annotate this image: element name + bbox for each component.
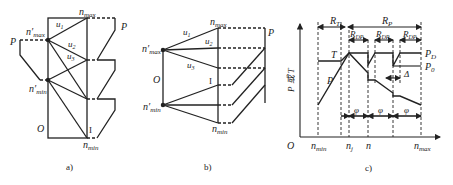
svg-text:RDP: RDP — [349, 29, 364, 40]
svg-text:n′min: n′min — [29, 83, 47, 96]
svg-text:O: O — [153, 74, 160, 85]
svg-text:nmin: nmin — [311, 140, 327, 153]
caption-a: a) — [66, 162, 73, 172]
gear-speed-power-diagrams: nmax n′max n′min nmin u1 u2 u3 P P O I a… — [0, 0, 453, 185]
svg-text:P: P — [267, 27, 274, 38]
svg-text:PD: PD — [424, 48, 436, 61]
svg-text:P 或 T: P 或 T — [286, 67, 296, 93]
svg-text:φ: φ — [404, 105, 409, 115]
svg-text:P: P — [120, 21, 127, 32]
svg-text:n′max: n′max — [142, 43, 162, 56]
svg-text:T: T — [331, 49, 338, 60]
svg-text:φ: φ — [378, 105, 383, 115]
figure-c — [300, 22, 440, 137]
svg-text:nmin: nmin — [83, 139, 99, 152]
svg-text:n′min: n′min — [143, 101, 161, 114]
caption-c: c) — [365, 163, 372, 173]
svg-text:n′max: n′max — [26, 26, 46, 39]
figure-b-labels: nmax n′max n′min nmin u1 u2 u3 P O I b) — [142, 16, 274, 172]
svg-text:P0: P0 — [424, 61, 435, 74]
figure-b — [161, 28, 265, 123]
svg-text:φ: φ — [354, 105, 359, 115]
svg-text:nmax: nmax — [414, 140, 432, 153]
svg-text:nmin: nmin — [212, 123, 228, 136]
svg-text:RT: RT — [329, 15, 341, 28]
svg-text:u2: u2 — [205, 36, 213, 47]
caption-b: b) — [204, 162, 212, 172]
svg-text:nmax: nmax — [210, 16, 228, 29]
svg-text:u1: u1 — [56, 19, 64, 30]
figure-a-labels: nmax n′max n′min nmin u1 u2 u3 P P O I a… — [9, 6, 127, 172]
svg-text:n: n — [366, 140, 371, 151]
svg-text:u2: u2 — [68, 39, 76, 50]
svg-text:P: P — [9, 36, 16, 47]
svg-text:O: O — [287, 140, 294, 151]
svg-text:RDP: RDP — [375, 29, 390, 40]
svg-text:u1: u1 — [183, 27, 191, 38]
svg-text:RP: RP — [381, 15, 393, 28]
figure-c-labels: RT RP RDP RDP RDP T P PD P0 Δ φ φ φ P 或 … — [286, 15, 436, 173]
svg-text:nmax: nmax — [79, 6, 97, 19]
svg-text:nj: nj — [346, 140, 353, 153]
svg-text:O: O — [37, 123, 44, 134]
svg-text:Δ: Δ — [403, 69, 409, 79]
svg-text:I: I — [209, 76, 212, 86]
svg-text:I: I — [89, 125, 92, 135]
svg-text:P: P — [326, 75, 333, 86]
svg-text:u3: u3 — [187, 60, 195, 71]
svg-text:RDP: RDP — [402, 29, 417, 40]
